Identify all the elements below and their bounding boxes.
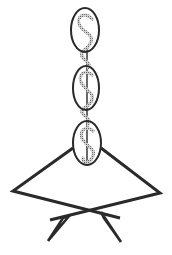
- chain-link-icon: [82, 112, 89, 125]
- dollar-chain-figure: [0, 0, 172, 255]
- dollar-sign-squiggles: [79, 15, 94, 162]
- figure-drawing: [0, 0, 172, 255]
